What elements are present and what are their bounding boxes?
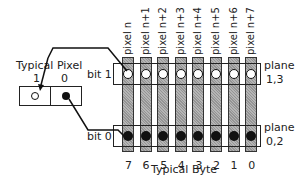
- open-circle-icon: [211, 69, 221, 79]
- open-circle-icon: [31, 92, 39, 100]
- pixel-label: pixel n+6: [229, 7, 239, 55]
- open-circle-icon: [123, 69, 133, 79]
- bit-index: 0: [248, 160, 255, 172]
- filled-circle-icon: [62, 92, 70, 100]
- plane-box-bit1: [113, 63, 261, 85]
- filled-circle-icon: [229, 131, 239, 141]
- pixel-label: pixel n+5: [211, 7, 221, 55]
- bit-index: 1: [231, 160, 238, 172]
- typical-pixel-title: Typical Pixel: [16, 60, 82, 72]
- filled-circle-icon: [211, 131, 221, 141]
- filled-circle-icon: [123, 131, 133, 141]
- plane-label-13-line2: 1,3: [266, 74, 284, 86]
- filled-circle-icon: [176, 131, 186, 141]
- pixel-label: pixel n+2: [158, 7, 168, 55]
- pixel-label: pixel n+4: [193, 7, 203, 55]
- bit-index: 7: [125, 160, 132, 172]
- plane-label-13-line1: plane: [264, 60, 295, 72]
- bit0-label: bit 0: [87, 131, 112, 143]
- filled-circle-icon: [141, 131, 151, 141]
- open-circle-icon: [176, 69, 186, 79]
- pixel-bit-1-label: 1: [33, 73, 40, 85]
- plane-label-02-line1: plane: [264, 122, 295, 134]
- typical-pixel-box: [19, 86, 82, 106]
- pixel-label: pixel n+1: [141, 7, 151, 55]
- open-circle-icon: [229, 69, 239, 79]
- pixel-label: pixel n+7: [246, 7, 256, 55]
- typical-byte-caption: Typical Byte: [151, 164, 217, 175]
- bit1-label: bit 1: [87, 69, 112, 81]
- pixel-bit-0-label: 0: [61, 73, 68, 85]
- pixel-label: pixel n: [123, 22, 133, 55]
- plane-label-02-line2: 0,2: [266, 136, 284, 148]
- open-circle-icon: [141, 69, 151, 79]
- pixel-box-divider: [50, 87, 51, 105]
- pixel-label: pixel n+3: [176, 7, 186, 55]
- bit-index: 6: [143, 160, 150, 172]
- plane-box-bit0: [113, 125, 261, 147]
